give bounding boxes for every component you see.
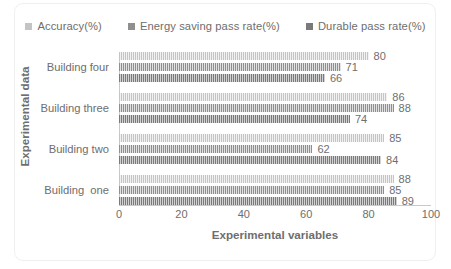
bar-group: 856284 xyxy=(119,134,431,164)
bar xyxy=(119,115,350,123)
bar xyxy=(119,52,369,60)
bar xyxy=(119,156,381,164)
bar-row: 66 xyxy=(119,74,431,82)
bar-value-label: 84 xyxy=(381,154,398,166)
x-axis-title: Experimental variables xyxy=(119,228,431,241)
bar-groups: 807166868874856284888589 xyxy=(119,52,431,205)
y-axis-tick-label: Building one xyxy=(0,175,115,205)
bar-row: 88 xyxy=(119,104,431,112)
bar-row: 85 xyxy=(119,186,431,194)
bar-row: 88 xyxy=(119,175,431,183)
bar-value-label: 74 xyxy=(350,113,367,125)
x-axis-tick-label: 20 xyxy=(175,208,187,220)
bar xyxy=(119,74,325,82)
chart-legend: Accuracy(%) Energy saving pass rate(%) D… xyxy=(0,20,451,32)
y-axis-tick-label: Building two xyxy=(0,134,115,164)
y-axis-tick-label: Building four xyxy=(0,52,115,82)
bar-row: 85 xyxy=(119,134,431,142)
legend-swatch-icon xyxy=(128,23,135,30)
x-axis-tick-labels: 020406080100 xyxy=(119,208,431,224)
legend-item-energy-saving-pass-rate: Energy saving pass rate(%) xyxy=(128,20,280,32)
bar-row: 80 xyxy=(119,52,431,60)
bar xyxy=(119,175,394,183)
legend-label: Accuracy(%) xyxy=(37,20,102,32)
bar xyxy=(119,134,384,142)
bar xyxy=(119,104,394,112)
y-axis-tick-label: Building three xyxy=(0,93,115,123)
legend-swatch-icon xyxy=(25,23,32,30)
bar xyxy=(119,93,387,101)
bar-row: 62 xyxy=(119,145,431,153)
bar-value-label: 88 xyxy=(394,102,411,114)
bar-row: 86 xyxy=(119,93,431,101)
bar xyxy=(119,186,384,194)
bar-group: 807166 xyxy=(119,52,431,82)
x-axis-line xyxy=(119,205,431,206)
legend-label: Energy saving pass rate(%) xyxy=(140,20,280,32)
x-axis-tick-label: 80 xyxy=(362,208,374,220)
bar-row: 74 xyxy=(119,115,431,123)
bar-group: 868874 xyxy=(119,93,431,123)
bar-row: 71 xyxy=(119,63,431,71)
bar xyxy=(119,63,341,71)
bar-value-label: 62 xyxy=(312,143,329,155)
bar-value-label: 71 xyxy=(341,61,358,73)
x-axis-tick-label: 60 xyxy=(300,208,312,220)
bar-chart: Accuracy(%) Energy saving pass rate(%) D… xyxy=(0,0,451,269)
legend-label: Durable pass rate(%) xyxy=(318,20,426,32)
x-axis-tick-label: 40 xyxy=(238,208,250,220)
bar xyxy=(119,197,397,205)
legend-item-accuracy: Accuracy(%) xyxy=(25,20,102,32)
x-axis-tick-label: 100 xyxy=(422,208,440,220)
bar-row: 84 xyxy=(119,156,431,164)
bar-value-label: 85 xyxy=(384,132,401,144)
bar-value-label: 80 xyxy=(369,50,386,62)
bar-group: 888589 xyxy=(119,175,431,205)
bar-value-label: 89 xyxy=(397,195,414,207)
bar-value-label: 66 xyxy=(325,72,342,84)
plot-area: 807166868874856284888589 xyxy=(119,52,431,205)
x-axis-tick-label: 0 xyxy=(116,208,122,220)
legend-item-durable-pass-rate: Durable pass rate(%) xyxy=(306,20,426,32)
y-axis-category-labels: Building four Building three Building tw… xyxy=(0,52,115,205)
legend-swatch-icon xyxy=(306,23,313,30)
bar xyxy=(119,145,312,153)
bar-row: 89 xyxy=(119,197,431,205)
